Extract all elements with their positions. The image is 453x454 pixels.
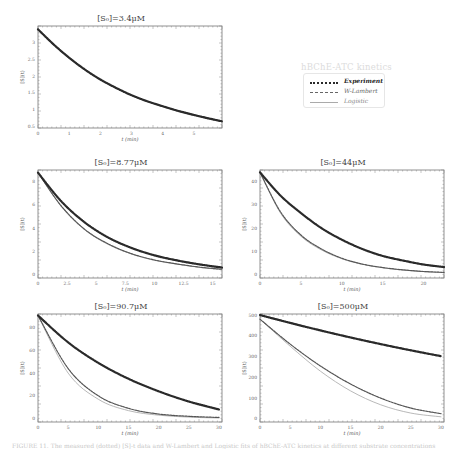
svg-text:0: 0 xyxy=(37,281,40,286)
svg-text:0: 0 xyxy=(254,416,257,421)
svg-text:5: 5 xyxy=(192,131,195,136)
svg-text:4: 4 xyxy=(161,131,164,136)
chart-plot: 05101520010203040t (min)[S](t) xyxy=(238,158,448,294)
svg-text:25: 25 xyxy=(186,425,192,430)
svg-text:15: 15 xyxy=(380,281,386,286)
svg-text:8: 8 xyxy=(32,179,35,184)
legend-label-w-lambert: W-Lambert xyxy=(344,87,378,94)
svg-text:5: 5 xyxy=(299,281,302,286)
svg-text:30: 30 xyxy=(438,425,444,430)
svg-text:0: 0 xyxy=(254,272,257,277)
svg-text:0: 0 xyxy=(32,272,35,277)
svg-text:5: 5 xyxy=(95,281,98,286)
legend-item-w-lambert: W-Lambert xyxy=(304,87,384,97)
svg-text:300: 300 xyxy=(248,354,257,359)
svg-text:[S](t): [S](t) xyxy=(19,70,25,83)
figure-caption: FIGURE 11. The measured (dotted) [S]-t d… xyxy=(12,442,448,449)
svg-text:2: 2 xyxy=(32,74,35,79)
svg-text:[S](t): [S](t) xyxy=(19,361,25,374)
legend-item-experiment: Experiment xyxy=(304,77,384,87)
svg-text:10: 10 xyxy=(251,249,257,254)
legend-title: hBChE-ATC kinetics xyxy=(240,62,453,72)
svg-text:0: 0 xyxy=(259,281,262,286)
svg-text:40: 40 xyxy=(251,179,257,184)
svg-text:t (min): t (min) xyxy=(343,430,360,436)
svg-text:5: 5 xyxy=(289,425,292,430)
chart-panel-s0-3-4: [S₀]=3.4μM0123450.511.522.53t (min)[S](t… xyxy=(16,14,226,144)
svg-text:5: 5 xyxy=(67,425,70,430)
chart-panel-s0-500: [S₀]=500μM0510152025300100200300400500t … xyxy=(238,302,448,438)
svg-text:0: 0 xyxy=(37,425,40,430)
svg-text:60: 60 xyxy=(29,348,35,353)
legend-swatch-w-lambert xyxy=(310,92,338,93)
chart-plot: 02.557.51012.51502468t (min)[S](t) xyxy=(16,158,226,294)
svg-text:20: 20 xyxy=(156,425,162,430)
legend-label-logistic: Logistic xyxy=(344,97,368,104)
svg-text:2.5: 2.5 xyxy=(28,57,35,62)
svg-text:80: 80 xyxy=(29,325,35,330)
svg-text:0: 0 xyxy=(32,416,35,421)
svg-text:t (min): t (min) xyxy=(343,286,360,292)
svg-text:20: 20 xyxy=(378,425,384,430)
svg-text:20: 20 xyxy=(29,393,35,398)
legend-label-experiment: Experiment xyxy=(344,77,383,84)
svg-text:t (min): t (min) xyxy=(121,286,138,292)
svg-text:2: 2 xyxy=(32,249,35,254)
svg-text:6: 6 xyxy=(32,202,35,207)
svg-text:1: 1 xyxy=(68,131,71,136)
chart-panel-s0-44: [S₀]=44μM05101520010203040t (min)[S](t) xyxy=(238,158,448,294)
svg-text:200: 200 xyxy=(248,375,257,380)
svg-text:400: 400 xyxy=(248,333,257,338)
svg-text:10: 10 xyxy=(152,281,158,286)
svg-text:10: 10 xyxy=(95,425,101,430)
svg-text:1.5: 1.5 xyxy=(28,90,35,95)
legend-swatch-experiment xyxy=(310,82,338,84)
svg-text:3: 3 xyxy=(32,40,35,45)
svg-text:4: 4 xyxy=(32,226,35,231)
svg-text:2.5: 2.5 xyxy=(64,281,71,286)
svg-text:[S](t): [S](t) xyxy=(241,361,247,374)
svg-text:0: 0 xyxy=(259,425,262,430)
svg-text:20: 20 xyxy=(421,281,427,286)
svg-text:15: 15 xyxy=(210,281,216,286)
svg-text:30: 30 xyxy=(216,425,222,430)
svg-text:0: 0 xyxy=(37,131,40,136)
svg-text:40: 40 xyxy=(29,371,35,376)
svg-text:2: 2 xyxy=(99,131,102,136)
chart-plot: 051015202530020406080t (min)[S](t) xyxy=(16,302,226,438)
chart-panel-s0-8-77: [S₀]=8.77μM02.557.51012.51502468t (min)[… xyxy=(16,158,226,294)
legend-item-logistic: Logistic xyxy=(304,97,384,107)
legend-swatch-logistic xyxy=(310,102,338,103)
svg-text:25: 25 xyxy=(408,425,414,430)
svg-text:[S](t): [S](t) xyxy=(241,217,247,230)
legend: Experiment W-Lambert Logistic xyxy=(303,73,385,108)
chart-plot: 0123450.511.522.53t (min)[S](t) xyxy=(16,14,226,144)
svg-text:[S](t): [S](t) xyxy=(19,217,25,230)
svg-text:500: 500 xyxy=(248,313,257,318)
chart-panel-s0-90-7: [S₀]=90.7μM051015202530020406080t (min)[… xyxy=(16,302,226,438)
svg-text:20: 20 xyxy=(251,226,257,231)
svg-text:30: 30 xyxy=(251,202,257,207)
svg-text:100: 100 xyxy=(248,396,257,401)
svg-text:t (min): t (min) xyxy=(121,430,138,436)
chart-plot: 0510152025300100200300400500t (min)[S](t… xyxy=(238,302,448,438)
svg-text:t (min): t (min) xyxy=(121,136,138,142)
svg-text:10: 10 xyxy=(317,425,323,430)
svg-text:0.5: 0.5 xyxy=(28,124,35,129)
svg-text:1: 1 xyxy=(32,107,35,112)
svg-text:12.5: 12.5 xyxy=(179,281,189,286)
